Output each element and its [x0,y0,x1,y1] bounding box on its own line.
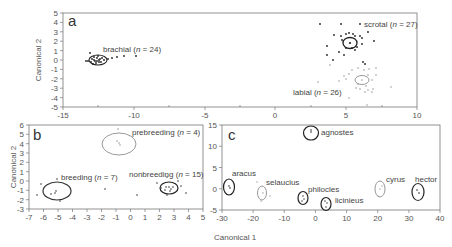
tick-label: -7 [25,213,33,222]
tick-label: 5 [344,111,349,120]
tick-label: -10 [279,214,291,223]
tick-label: 40 [436,214,445,223]
labial-label: labial (n = 26) [293,88,342,97]
panel-a-y-axis-title: Canonical 2 [34,38,43,81]
tick-label: 6 [20,121,25,130]
licinieus-label: licinieus [335,196,363,205]
panel-b-y-tick-marks [26,125,29,209]
tick-label: 5 [20,130,25,139]
tick-label: -6 [40,213,48,222]
tick-label: 2 [54,37,59,46]
tick-label: 10 [208,142,217,151]
tick-label: -1 [17,186,25,195]
panel-c-x-tick-labels: -30 -20 -10 0 10 20 30 40 [216,214,445,223]
tick-label: 0 [313,214,318,223]
breeding-label: breeding (n = 7) [61,173,118,182]
tick-label: -10 [128,111,140,120]
scrotal-label: scrotal (n = 27) [364,20,418,29]
tick-label: -2 [98,213,106,222]
scrotal-group: scrotal (n = 27) [319,20,418,65]
tick-label: -20 [247,214,259,223]
cyrus-group: cyrus [375,175,405,197]
tick-label: 2 [20,158,25,167]
tick-label: 2 [157,213,162,222]
prebreeding-label: prebreeding (n = 4) [132,128,201,137]
tick-label: -30 [216,214,228,223]
tick-label: 0 [54,56,59,65]
figure: a 5 4 3 2 1 0 -1 -2 -3 -4 -5 [0,0,452,247]
tick-label: 5 [201,213,206,222]
tick-label: -1 [112,213,120,222]
prebreeding-group: prebreeding (n = 4) [102,128,201,155]
panel-b-frame [29,125,203,209]
tick-label: -15 [57,111,69,120]
aracus-group: aracus [224,169,257,195]
licinieus-group: licinieus [321,196,363,211]
tick-label: 0 [128,213,133,222]
tick-label: -3 [83,213,91,222]
labial-group: labial (n = 26) [293,64,392,106]
panel-c-x-tick-marks [222,210,440,213]
x-axis-title: Canonical 1 [214,233,257,242]
tick-label: 10 [342,214,351,223]
panel-b-y-tick-labels: 6 5 4 3 2 1 0 -1 -2 -3 [17,121,25,214]
panel-c-frame [222,125,440,210]
tick-label: 15 [208,121,217,130]
panel-a-x-tick-labels: -15 -10 -5 0 5 10 [57,111,422,120]
tick-label: 0 [273,111,278,120]
tick-label: 5 [213,164,218,173]
agnostes-label: agnostes [321,128,353,137]
tick-label: 10 [413,111,422,120]
panel-a: a 5 4 3 2 1 0 -1 -2 -3 -4 -5 [34,9,422,120]
panel-b-x-tick-marks [29,209,203,212]
tick-label: 30 [404,214,413,223]
tick-label: -1 [51,65,59,74]
panel-a-y-tick-labels: 5 4 3 2 1 0 -1 -2 -3 -4 -5 [51,9,59,112]
tick-label: 3 [20,149,25,158]
panel-a-letter: a [68,12,77,29]
panel-c-y-tick-labels: 15 10 5 0 -5 [208,121,217,215]
tick-label: 3 [54,28,59,37]
agnostes-group: agnostes [304,126,354,140]
tick-label: -4 [69,213,77,222]
tick-label: 3 [172,213,177,222]
philocles-label: philocles [308,185,339,194]
tick-label: 0 [213,185,218,194]
panel-b-y-axis-title: Canonical 2 [9,145,18,188]
tick-label: 4 [54,18,59,27]
tick-label: 1 [20,168,25,177]
nonbreeding-label: nonbreeding (n = 15) [129,170,204,179]
tick-label: 0 [20,177,25,186]
panel-b-x-tick-labels: -7 -6 -5 -4 -3 -2 -1 0 1 2 3 4 5 [25,213,205,222]
philocles-group: philocles [298,185,339,205]
tick-label: -2 [17,196,25,205]
selaucius-label: selaucius [266,178,299,187]
panel-c-y-tick-marks [219,125,222,210]
tick-label: -2 [51,75,59,84]
tick-label: 20 [373,214,382,223]
panel-c: c 15 10 5 0 -5 -30 -20 -10 0 10 20 30 [208,121,445,242]
panel-b-letter: b [33,126,41,143]
tick-label: 5 [54,9,59,18]
tick-label: 4 [186,213,191,222]
hector-label: hector [415,175,438,184]
brachial-label: brachial (n = 24) [103,45,161,54]
tick-label: -4 [51,94,59,103]
tick-label: 1 [143,213,148,222]
panel-a-y-tick-marks [60,13,63,107]
nonbreeding-group: nonbreeding (n = 15) [104,170,204,196]
cyrus-label: cyrus [386,175,405,184]
aracus-label: aracus [232,169,256,178]
tick-label: 1 [54,47,59,56]
hector-group: hector [412,175,438,201]
tick-label: -3 [17,205,25,214]
tick-label: 4 [20,140,25,149]
panel-c-letter: c [228,126,236,143]
panel-a-x-tick-marks [63,105,417,110]
brachial-group: brachial (n = 24) [85,45,161,65]
tick-label: -5 [54,213,62,222]
breeding-group: breeding (n = 7) [36,173,118,202]
tick-label: -3 [51,84,59,93]
tick-label: -5 [201,111,209,120]
selaucius-group: selaucius [256,178,299,202]
